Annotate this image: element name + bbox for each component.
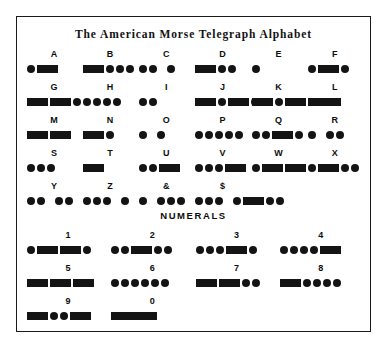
numeral-entry-9: 9 — [25, 296, 109, 322]
morse-dot — [83, 98, 91, 106]
morse-dot — [73, 98, 81, 106]
numeral-label: 8 — [318, 263, 323, 274]
morse-dot — [113, 98, 121, 106]
numerals-section: 1234567890 — [25, 223, 362, 322]
page-title: The American Morse Telegraph Alphabet — [25, 28, 362, 40]
morse-dot — [93, 98, 101, 106]
letter-label: Z — [107, 181, 113, 192]
letter-label: M — [50, 115, 58, 126]
morse-code-sequence — [139, 62, 177, 75]
morse-code-sequence — [111, 276, 171, 289]
morse-dot — [157, 131, 165, 139]
letter-label: Q — [275, 115, 282, 126]
morse-dot — [154, 246, 162, 254]
letter-entry-I: I — [137, 82, 193, 108]
morse-code-sequence — [27, 276, 96, 289]
morse-dot — [161, 279, 169, 287]
letter-label: X — [332, 148, 338, 159]
morse-dot — [225, 131, 233, 139]
morse-dot — [235, 131, 243, 139]
morse-code-sequence — [196, 276, 262, 289]
letter-entry-V: V — [193, 148, 249, 174]
letter-entry-B: B — [81, 49, 137, 75]
letter-entry-E: E — [250, 49, 306, 75]
morse-dot — [228, 65, 236, 73]
letter-label: D — [219, 49, 226, 60]
morse-dot — [37, 197, 45, 205]
morse-dot — [233, 197, 241, 205]
morse-dot — [333, 279, 341, 287]
morse-dot — [164, 246, 172, 254]
letter-row: ABCDEF — [25, 42, 362, 75]
numeral-entry-2: 2 — [109, 230, 193, 256]
letter-entry-W: W — [250, 148, 306, 174]
morse-code-sequence — [252, 128, 305, 141]
letter-entry-C: C — [137, 49, 193, 75]
morse-dot — [195, 164, 203, 172]
morse-code-sequence — [139, 194, 187, 207]
letter-label: H — [107, 82, 114, 93]
morse-dot — [149, 65, 157, 73]
letter-label: J — [220, 82, 225, 93]
letter-entry-D: D — [193, 49, 249, 75]
morse-code-sequence — [83, 194, 131, 207]
morse-dot — [55, 197, 63, 205]
morse-dot — [341, 164, 349, 172]
morse-code-sequence — [83, 161, 106, 174]
morse-dash — [50, 131, 71, 139]
morse-dot — [205, 197, 213, 205]
morse-dot — [205, 164, 213, 172]
morse-dot — [111, 246, 119, 254]
morse-code-sequence — [196, 243, 259, 256]
morse-dash — [272, 131, 293, 139]
morse-dot — [300, 246, 308, 254]
morse-dash — [37, 246, 58, 254]
morse-code-sequence — [27, 128, 73, 141]
morse-dot — [310, 246, 318, 254]
morse-dot — [167, 65, 175, 73]
morse-dot — [83, 197, 91, 205]
morse-code-sequence — [308, 95, 343, 108]
numeral-label: 6 — [150, 263, 155, 274]
letter-label: R — [331, 115, 338, 126]
morse-code-sequence — [27, 243, 93, 256]
morse-dash — [195, 65, 216, 73]
morse-code-sequence — [139, 128, 167, 141]
morse-dot — [303, 279, 311, 287]
morse-code-sequence — [27, 95, 83, 108]
numeral-label: 0 — [150, 296, 155, 307]
letter-entry-X: X — [306, 148, 362, 174]
letter-entry-K: K — [250, 82, 306, 108]
morse-dot — [252, 131, 260, 139]
numeral-entry-6: 6 — [109, 263, 193, 289]
morse-dot — [27, 246, 35, 254]
morse-dot — [326, 131, 334, 139]
morse-dot — [195, 197, 203, 205]
morse-code-sequence — [27, 161, 57, 174]
letter-entry-H: H — [81, 82, 137, 108]
morse-dash — [280, 279, 301, 287]
letter-label: V — [219, 148, 225, 159]
morse-dot — [215, 131, 223, 139]
morse-dot — [157, 197, 165, 205]
morse-dash — [111, 312, 157, 320]
morse-code-sequence — [308, 128, 346, 141]
morse-dot — [276, 197, 284, 205]
morse-dot — [139, 65, 147, 73]
morse-dot — [151, 279, 159, 287]
letter-row: MNOPQR — [25, 108, 362, 141]
morse-dash — [60, 246, 81, 254]
morse-dash — [73, 279, 94, 287]
morse-dash — [195, 98, 216, 106]
letter-entry-M: M — [25, 115, 81, 141]
morse-dot — [266, 197, 274, 205]
numeral-row: 1234 — [25, 223, 362, 256]
morse-dot — [252, 279, 260, 287]
morse-dot — [106, 131, 114, 139]
numeral-entry-1: 1 — [25, 230, 109, 256]
morse-dot — [106, 65, 114, 73]
morse-dot — [308, 131, 316, 139]
morse-dot — [196, 246, 204, 254]
letter-label: B — [107, 49, 114, 60]
morse-dot — [27, 65, 35, 73]
